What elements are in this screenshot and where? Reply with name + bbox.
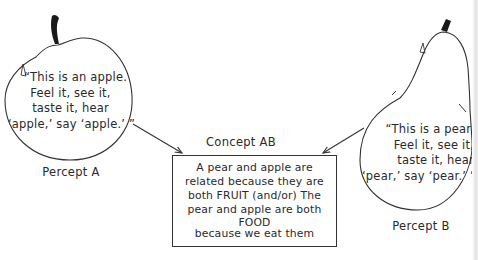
- concept-line: A pear and apple are: [173, 161, 336, 175]
- arrow-a-to-concept: [133, 124, 182, 153]
- page-edge-shadow: [472, 0, 478, 260]
- arrow-b-to-concept: [323, 128, 364, 153]
- quote-line: taste it, hear: [8, 101, 133, 117]
- quote-line: “This is an apple.: [8, 70, 133, 86]
- concept-line: because we eat them: [173, 228, 336, 239]
- pear-stem-icon: [441, 19, 451, 32]
- apple-stem-icon: [51, 15, 59, 44]
- concept-label: Concept AB: [200, 135, 282, 149]
- percept-a-label: Percept A: [30, 165, 112, 179]
- diagram-canvas: “This is an apple. Feel it, see it, tast…: [0, 0, 478, 260]
- pear-highlight-icon: [420, 43, 425, 53]
- percept-b-label: Percept B: [380, 219, 462, 233]
- concept-line: both FRUIT (and/or) The: [173, 189, 336, 203]
- percept-b-quote: “This is a pear. Feel it, see it, taste …: [362, 122, 474, 184]
- quote-line: ‘apple,’ say ‘apple.’ ”: [8, 117, 133, 133]
- concept-text: A pear and apple are related because the…: [173, 161, 336, 239]
- quote-line: Feel it, see it,: [8, 86, 133, 102]
- concept-line: pear and apple are both: [173, 203, 336, 217]
- quote-line: taste it, hear: [362, 153, 474, 169]
- quote-line: Feel it, see it,: [362, 138, 474, 154]
- concept-line: related because they are: [173, 175, 336, 189]
- percept-a-quote: “This is an apple. Feel it, see it, tast…: [8, 70, 133, 132]
- quote-line: “This is a pear.: [362, 122, 474, 138]
- concept-box: A pear and apple are related because the…: [172, 155, 337, 247]
- quote-line: ‘pear,’ say ‘pear.’ ”: [362, 169, 474, 185]
